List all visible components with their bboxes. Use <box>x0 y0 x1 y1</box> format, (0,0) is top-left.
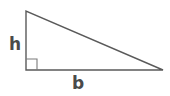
triangle-figure: h b <box>0 0 170 96</box>
triangle-drawing-canvas <box>0 0 170 96</box>
height-label: h <box>9 36 21 53</box>
triangle-outline <box>26 11 163 70</box>
base-label: b <box>72 75 84 92</box>
right-angle-square-icon <box>26 59 37 70</box>
